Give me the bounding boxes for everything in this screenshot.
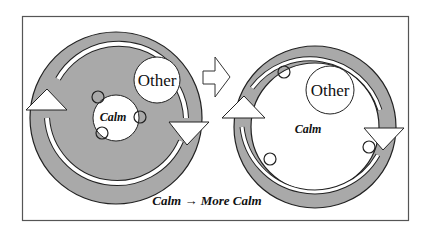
left-calm-label: Calm bbox=[100, 110, 127, 124]
left-other-label: Other bbox=[138, 71, 177, 90]
diagram-caption: Calm → More Calm bbox=[152, 193, 261, 208]
right-calm-label: Calm bbox=[295, 122, 322, 136]
right-other-label: Other bbox=[311, 81, 350, 100]
calm-cycle-diagram: Other Calm Other Calm Calm → More Calm bbox=[0, 0, 430, 233]
